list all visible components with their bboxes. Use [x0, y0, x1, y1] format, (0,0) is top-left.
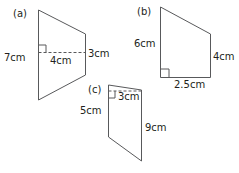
shape-b-left-label: 6cm: [134, 39, 156, 49]
shape-a-left-label: 7cm: [4, 53, 26, 63]
shape-c-height-label: 3cm: [118, 92, 140, 102]
shape-b-base-label: 2.5cm: [174, 80, 205, 90]
shape-a-tag: (a): [13, 9, 27, 19]
shape-c-right-label: 9cm: [145, 123, 167, 133]
shape-a-height-label: 4cm: [50, 56, 72, 66]
shape-b-tag: (b): [137, 7, 151, 17]
shape-c-tag: (c): [88, 85, 101, 95]
shape-c-left-label: 5cm: [80, 106, 102, 116]
shape-b-right-label: 4cm: [213, 52, 235, 62]
shape-b: [161, 7, 211, 78]
shape-a-right-label: 3cm: [88, 49, 110, 59]
trapezium-diagram: (a) 7cm 4cm 3cm (b) 6cm 4cm 2.5cm (c) 5c…: [0, 0, 239, 173]
